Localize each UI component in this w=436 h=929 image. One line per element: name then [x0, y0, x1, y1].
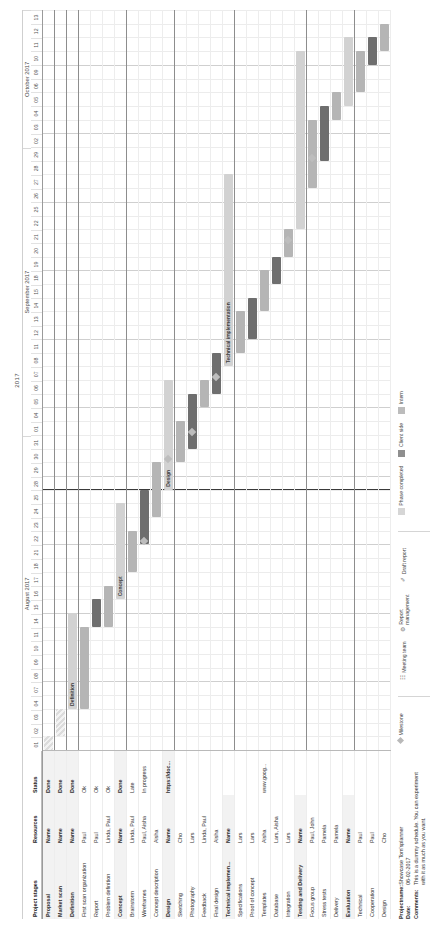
gantt-bar[interactable]: Design: [164, 380, 173, 490]
gantt-bar[interactable]: [368, 37, 377, 64]
legend-item-milestone: Milestone: [398, 713, 404, 743]
table-row[interactable]: SpecificationsLars: [235, 751, 247, 919]
table-row[interactable]: First scan organizationPaulOk: [79, 751, 91, 919]
gantt-bar[interactable]: Concept: [116, 503, 125, 599]
gantt-row[interactable]: [79, 10, 91, 750]
table-row[interactable]: PhotographyLars: [187, 751, 199, 919]
table-row[interactable]: EvaluationName: [343, 751, 355, 919]
gantt-row[interactable]: [247, 10, 259, 750]
table-row[interactable]: CooperationPaul: [367, 751, 379, 919]
table-row[interactable]: ProposalNameDone: [43, 751, 55, 919]
gantt-bar[interactable]: [248, 298, 257, 339]
gantt-row[interactable]: [211, 10, 223, 750]
gantt-row[interactable]: [139, 10, 151, 750]
gantt-bar[interactable]: [80, 627, 89, 709]
gantt-bar[interactable]: [152, 462, 161, 517]
legend-item-mark: ✐Draft report: [398, 548, 410, 582]
table-row[interactable]: FeedbackLinda, Paul: [199, 751, 211, 919]
table-row[interactable]: DesignNamehttps://doc...: [163, 751, 175, 919]
table-row[interactable]: Concept descriptionAisha: [151, 751, 163, 919]
gantt-row[interactable]: [343, 10, 355, 750]
table-row[interactable]: BrainstormLinda, PaulLate: [127, 751, 139, 919]
cell-stage: Cooperation: [367, 845, 378, 919]
table-row[interactable]: DatabaseLars, Aisha: [271, 751, 283, 919]
comments-value: This is a dummy schedule. You can experi…: [413, 767, 428, 885]
table-row[interactable]: ReportPaulOk: [91, 751, 103, 919]
gantt-bar[interactable]: [380, 24, 389, 51]
gantt-row[interactable]: [319, 10, 331, 750]
gantt-row[interactable]: Concept: [115, 10, 127, 750]
cell-stat: Late: [127, 751, 138, 795]
gantt-bar[interactable]: [200, 380, 209, 407]
table-row[interactable]: DesignCho: [379, 751, 391, 919]
gantt-bar[interactable]: Definition: [68, 613, 77, 709]
table-row[interactable]: ConceptNameDone: [115, 751, 127, 919]
gantt-row[interactable]: [283, 10, 295, 750]
gantt-row[interactable]: [199, 10, 211, 750]
table-row[interactable]: Market scanNameDone: [55, 751, 67, 919]
gantt-bar[interactable]: [188, 394, 197, 449]
gantt-row[interactable]: [271, 10, 283, 750]
day-label: 03: [31, 120, 42, 134]
gantt-bar[interactable]: [260, 270, 269, 311]
gantt-bar[interactable]: [356, 51, 365, 92]
gantt-bar[interactable]: [272, 257, 281, 284]
project-meta: Projectname: Showcase Tom'splanner Date:…: [398, 751, 430, 919]
gantt-row[interactable]: [367, 10, 379, 750]
legend-mark-label: Draft report: [401, 548, 407, 574]
day-label: 09: [31, 65, 42, 79]
gantt-row[interactable]: [91, 10, 103, 750]
table-row[interactable]: SketchingCho: [175, 751, 187, 919]
gantt-bar[interactable]: [296, 51, 305, 229]
gantt-row[interactable]: [151, 10, 163, 750]
gantt-bar-label: Concept: [116, 576, 125, 596]
gantt-bar[interactable]: [128, 531, 137, 572]
table-row[interactable]: TemplatesAishawww.goog...: [259, 751, 271, 919]
table-row[interactable]: Technical implemen...Name: [223, 751, 235, 919]
legend-mark-label: Report management: [398, 591, 410, 625]
gantt-bar[interactable]: [176, 421, 185, 462]
gantt-row[interactable]: [175, 10, 187, 750]
gantt-bar[interactable]: [56, 709, 65, 736]
day-label: 13: [31, 10, 42, 24]
table-row[interactable]: DefinitionNameDone: [67, 751, 79, 919]
gridlines: [55, 10, 66, 750]
table-row[interactable]: WireframesPaul, AishaIn progress: [139, 751, 151, 919]
gantt-row[interactable]: [379, 10, 391, 750]
milestone-marker[interactable]: [139, 537, 147, 545]
table-row[interactable]: IntegrationLars: [283, 751, 295, 919]
gantt-row[interactable]: Technical implementation: [223, 10, 235, 750]
table-row[interactable]: Final designAisha: [211, 751, 223, 919]
gantt-bar[interactable]: [332, 92, 341, 119]
gantt-row[interactable]: [187, 10, 199, 750]
gantt-bar[interactable]: [320, 106, 329, 161]
gantt-row[interactable]: [307, 10, 319, 750]
table-row[interactable]: DeliveryPamela: [331, 751, 343, 919]
gantt-bar[interactable]: [236, 311, 245, 352]
table-row[interactable]: Focus groupPaul, John: [307, 751, 319, 919]
gantt-row[interactable]: [55, 10, 67, 750]
gantt-row[interactable]: Design: [163, 10, 175, 750]
day-label: 01: [31, 422, 42, 436]
gantt-bar[interactable]: Technical implementation: [224, 174, 233, 366]
gantt-row[interactable]: [235, 10, 247, 750]
gantt-bar[interactable]: [92, 599, 101, 626]
gantt-row[interactable]: [103, 10, 115, 750]
gantt-row[interactable]: [127, 10, 139, 750]
gantt-row[interactable]: [43, 10, 55, 750]
gantt-bar[interactable]: [104, 586, 113, 627]
gantt-row[interactable]: Definition: [67, 10, 79, 750]
table-row[interactable]: Proof of conceptLars: [247, 751, 259, 919]
gantt-row[interactable]: [295, 10, 307, 750]
table-row[interactable]: Testing and DeliveryName: [295, 751, 307, 919]
cell-res: Name: [343, 795, 354, 845]
gantt-row[interactable]: [331, 10, 343, 750]
gantt-bar[interactable]: [344, 37, 353, 106]
table-row[interactable]: TechnicalPaul: [355, 751, 367, 919]
gantt-row[interactable]: [355, 10, 367, 750]
gantt-bar[interactable]: [44, 736, 53, 750]
gantt-row[interactable]: [259, 10, 271, 750]
legend-marks-group: ☷Meeting team⚙Report management✐Draft re…: [398, 548, 410, 680]
table-row[interactable]: Stress testsPamela: [319, 751, 331, 919]
table-row[interactable]: Problem definitionLinda, PaulOk: [103, 751, 115, 919]
